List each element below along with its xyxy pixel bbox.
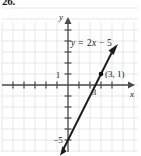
plotted-point-marker xyxy=(99,72,104,77)
plot-line-group xyxy=(60,44,118,156)
figure-container: 26. xyxy=(0,0,141,156)
y-tick-label-1: 1 xyxy=(56,70,61,80)
y-tick-label-minus5: −5 xyxy=(53,135,63,145)
y-axis-arrowhead xyxy=(65,17,72,24)
x-tick-label-3: 3 xyxy=(92,87,97,97)
point-annotation-label: (3, 1) xyxy=(105,69,125,79)
equation-variable: x xyxy=(91,38,97,48)
equation-lhs: y xyxy=(70,38,76,48)
equation-equals: = xyxy=(78,38,83,48)
equation-minus-sign: − xyxy=(99,38,104,48)
coordinate-graph: y = 2 x − 5 (3, 1) 1 −5 3 y x xyxy=(0,0,141,156)
equation-label: y = 2 x − 5 xyxy=(70,38,112,48)
y-axis-name-label: y xyxy=(58,12,63,22)
equation-intercept: 5 xyxy=(107,38,112,48)
x-axis-name-label: x xyxy=(129,89,134,99)
